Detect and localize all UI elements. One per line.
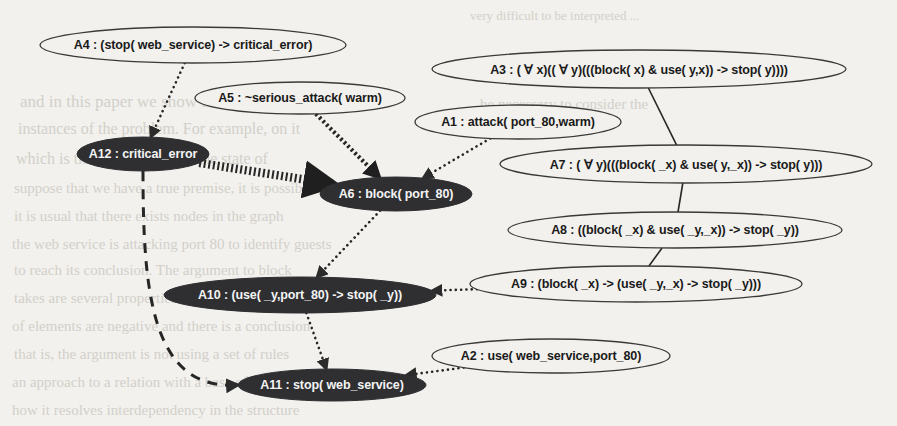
- graph-node-hit-a7[interactable]: [500, 145, 872, 183]
- graph-node-hit-a2[interactable]: [432, 339, 670, 373]
- graph-node-hit-a6[interactable]: [320, 177, 472, 211]
- graph-edge-a3-a7: [648, 88, 676, 145]
- graph-node-hit-a1[interactable]: [415, 105, 621, 139]
- graph-node-hit-a3[interactable]: [432, 50, 846, 88]
- graph-edge-a12-a11: [143, 171, 238, 385]
- graph-node-hit-a5[interactable]: [195, 82, 405, 114]
- graph-edge-a7-a8: [678, 183, 683, 212]
- graph-edge-a8-a9: [649, 248, 662, 266]
- graph-edge-a2-a11: [406, 368, 464, 376]
- graph-edge-a9-a10: [432, 289, 477, 290]
- figure-canvas: very difficult to be interpreted ...and …: [0, 0, 897, 426]
- graph-edge-a10-a11: [306, 313, 326, 369]
- graph-node-hit-a12[interactable]: [77, 137, 209, 171]
- graph-edge-a1-a6: [423, 138, 490, 178]
- graph-node-hit-a10[interactable]: [164, 277, 436, 313]
- graph-edge-a6-a10: [317, 211, 380, 278]
- graph-edge-a4-a12: [151, 63, 185, 137]
- graph-edge-a5-a6: [316, 114, 380, 178]
- graph-node-hit-a8[interactable]: [508, 212, 842, 248]
- graph-edge-a12-a6: [199, 163, 334, 184]
- graph-node-hit-a9[interactable]: [470, 266, 802, 302]
- graph-node-hit-a4[interactable]: [40, 27, 346, 63]
- graph-node-hit-a11[interactable]: [238, 369, 426, 401]
